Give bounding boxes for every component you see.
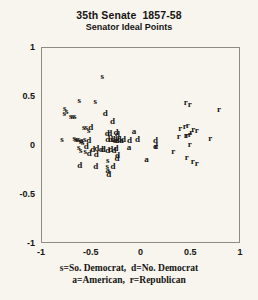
data-point-r: r [217, 105, 221, 114]
data-point-d: d [110, 116, 115, 125]
data-point-d: d [94, 150, 99, 159]
chart-subtitle: Senator Ideal Points [0, 22, 258, 33]
data-point-a: a [119, 135, 124, 144]
data-point-r: r [208, 133, 212, 142]
scatter-plot-figure: 35th Senate 1857-58 Senator Ideal Points… [0, 0, 258, 300]
data-point-d: d [87, 149, 92, 158]
x-tick-label: -0.5 [74, 247, 108, 257]
page-title: 35th Senate 1857-58 [0, 9, 258, 21]
data-point-r: r [195, 158, 199, 167]
x-tick-label: 0 [124, 247, 158, 257]
data-point-s: s [73, 112, 77, 121]
data-point-r: r [188, 100, 192, 109]
data-point-r: r [154, 142, 158, 151]
data-point-a: a [132, 126, 137, 135]
legend-line-2: a=American, r=Republican [0, 274, 258, 286]
x-tick-label: 0.5 [173, 247, 207, 257]
data-point-s: s [93, 97, 97, 106]
data-point-a: a [79, 135, 84, 144]
data-point-d: d [77, 161, 82, 170]
data-point-s: s [63, 108, 67, 117]
data-point-a: a [144, 154, 149, 163]
data-point-d: d [93, 161, 98, 170]
x-tick-label: -1 [24, 247, 58, 257]
data-point-d: d [103, 109, 108, 118]
data-point-d: d [88, 123, 93, 132]
legend-line-1: s=So. Democrat, d=No. Democrat [0, 262, 258, 274]
data-point-a: a [127, 142, 132, 151]
x-tick-label: 1 [223, 247, 257, 257]
title-block: 35th Senate 1857-58 Senator Ideal Points [0, 9, 258, 33]
data-point-r: r [189, 128, 193, 137]
data-point-r: r [185, 152, 189, 161]
data-point-r: r [188, 139, 192, 148]
y-tick-label: 1 [5, 42, 35, 52]
data-point-s: s [60, 135, 64, 144]
data-point-s: s [79, 145, 83, 154]
data-point-s: s [78, 96, 82, 105]
data-points-layer: sssssssssssssssssssssssssddddddddddddddd… [41, 47, 240, 243]
data-point-d: d [111, 162, 116, 171]
data-point-r: r [195, 125, 199, 134]
data-point-r: r [177, 131, 181, 140]
y-tick-label: 0.5 [5, 91, 35, 101]
y-tick-label: 0 [5, 140, 35, 150]
data-point-a: a [105, 165, 110, 174]
legend: s=So. Democrat, d=No. Democrat a=America… [0, 262, 258, 286]
data-point-s: s [100, 72, 104, 81]
data-point-r: r [171, 146, 175, 155]
y-tick-label: -0.5 [5, 189, 35, 199]
data-point-d: d [135, 135, 140, 144]
